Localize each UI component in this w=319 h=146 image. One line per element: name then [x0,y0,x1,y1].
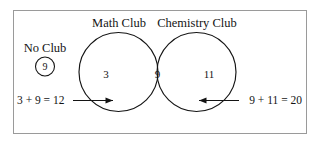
chemistry-club-label: Chemistry Club [157,16,237,30]
venn-diagram-screenshot: No Club 9 Math Club Chemistry Club 3 9 1… [0,0,319,146]
left-equation-label: 3 + 9 = 12 [17,94,65,106]
chemistry-only-count: 11 [204,68,215,80]
no-club-label: No Club [24,41,67,55]
intersection-count: 9 [155,68,161,80]
right-equation-label: 9 + 11 = 20 [249,94,302,106]
venn-diagram-figure: No Club 9 Math Club Chemistry Club 3 9 1… [0,0,319,146]
math-club-label: Math Club [92,16,146,30]
math-only-count: 3 [103,68,109,80]
no-club-count: 9 [43,61,48,72]
